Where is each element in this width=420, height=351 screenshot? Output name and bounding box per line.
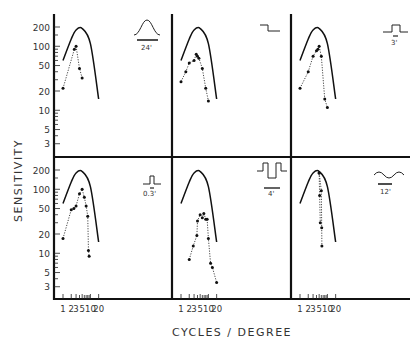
data-point — [320, 226, 323, 229]
bar-icon — [383, 25, 408, 32]
data-point — [193, 59, 196, 62]
stim-label-4: 0.3' — [143, 190, 156, 198]
x-axis-title: CYCLES / DEGREE — [172, 326, 292, 339]
edge-icon — [260, 25, 280, 31]
data-point — [207, 237, 210, 240]
data-point — [196, 219, 199, 222]
double-bar-icon — [257, 163, 287, 178]
y-tick-label: 50 — [39, 204, 51, 214]
data-point — [326, 106, 329, 109]
data-point — [204, 87, 207, 90]
y-tick-label: 50 — [39, 61, 51, 71]
measured-series — [63, 189, 89, 256]
figure: 20010050201053 20010050201053 1235102012… — [0, 0, 420, 351]
reference-curve — [63, 27, 99, 99]
panel-sine-12 — [300, 170, 336, 247]
panel-bar-3 — [299, 27, 336, 109]
y-tick-label: 200 — [33, 23, 50, 33]
reference-curve — [181, 170, 217, 242]
y-tick-label: 20 — [39, 230, 51, 240]
data-point — [320, 55, 323, 58]
data-point — [211, 266, 214, 269]
x-tick-label: 20 — [211, 304, 222, 314]
data-point — [318, 171, 321, 174]
data-point — [312, 55, 315, 58]
data-point — [180, 80, 183, 83]
data-point — [201, 216, 204, 219]
y-axis-title: SENSITIVITY — [12, 139, 25, 222]
data-point — [83, 196, 86, 199]
y-tick-label: 10 — [39, 106, 51, 116]
gaussian-icon — [134, 20, 160, 35]
data-point — [197, 57, 200, 60]
y-tick-label: 3 — [44, 139, 50, 149]
data-point — [199, 213, 202, 216]
y-tick-labels-bottom: 20010050201053 — [33, 166, 50, 293]
data-point — [75, 204, 78, 207]
stim-label-1: 24' — [141, 44, 152, 52]
data-point — [87, 249, 90, 252]
data-point — [215, 281, 218, 284]
x-tick-label: 20 — [93, 304, 104, 314]
plot-curves — [62, 27, 336, 284]
y-tick-label: 5 — [44, 268, 50, 278]
panel-double-bar-4 — [181, 170, 218, 284]
data-point — [318, 45, 321, 48]
data-point — [202, 212, 205, 215]
data-point — [73, 48, 76, 51]
x-tick-labels: 123510201235102012351020 — [60, 304, 341, 314]
data-point — [316, 48, 319, 51]
data-point — [320, 244, 323, 247]
y-tick-label: 100 — [33, 42, 50, 52]
stim-label-3: 3' — [391, 39, 397, 47]
panel-gaussian-24 — [62, 27, 99, 99]
data-point — [78, 67, 81, 70]
x-tick-label: 3 — [73, 304, 78, 314]
data-point — [299, 87, 302, 90]
data-point — [318, 194, 321, 197]
stim-label-6: 12' — [380, 188, 391, 196]
x-tick-label: 3 — [310, 304, 315, 314]
data-point — [323, 97, 326, 100]
data-point — [78, 192, 81, 195]
x-tick-label: 20 — [330, 304, 341, 314]
data-point — [62, 87, 65, 90]
data-point — [192, 244, 195, 247]
x-tick-label: 1 — [297, 304, 302, 314]
data-point — [307, 70, 310, 73]
data-point — [201, 67, 204, 70]
y-tick-label: 20 — [39, 87, 51, 97]
x-tick-label: 1 — [178, 304, 183, 314]
y-tick-label: 10 — [39, 249, 51, 259]
y-tick-label: 100 — [33, 185, 50, 195]
sine-icon — [374, 172, 404, 178]
y-tick-labels-top: 20010050201053 — [33, 23, 50, 150]
y-tick-label: 3 — [44, 282, 50, 292]
x-tick-label: 3 — [191, 304, 196, 314]
data-point — [85, 204, 88, 207]
y-tick-label: 5 — [44, 125, 50, 135]
reference-curve — [300, 27, 336, 99]
data-point — [81, 76, 84, 79]
data-point — [207, 99, 210, 102]
x-tick-label: 1 — [60, 304, 65, 314]
data-point — [188, 61, 191, 64]
data-point — [209, 262, 212, 265]
measured-series — [319, 173, 320, 223]
y-tick-label: 200 — [33, 166, 50, 176]
stimulus-icons — [134, 20, 408, 188]
data-point — [188, 258, 191, 261]
stim-label-5: 4' — [268, 190, 274, 198]
measured-series — [189, 213, 216, 282]
data-point — [81, 188, 84, 191]
data-point — [86, 215, 89, 218]
reference-curve — [63, 170, 99, 242]
data-point — [195, 234, 198, 237]
data-point — [88, 255, 91, 258]
data-point — [70, 208, 73, 211]
frame — [53, 14, 410, 300]
data-point — [206, 218, 209, 221]
panel-bar-0.3 — [62, 170, 99, 257]
reference-curve — [300, 170, 336, 242]
data-point — [75, 45, 78, 48]
